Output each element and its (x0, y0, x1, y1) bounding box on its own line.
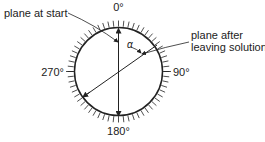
label-270deg: 270° (41, 66, 64, 78)
label-alpha: α (127, 39, 133, 50)
label-plane-at-start: plane at start (4, 7, 68, 19)
label-0deg: 0° (113, 1, 124, 13)
label-180deg: 180° (107, 125, 130, 137)
lower-arrow (83, 92, 90, 97)
plane-after-leader (142, 42, 189, 54)
label-90deg: 90° (173, 66, 190, 78)
polarimeter-diagram: 0° 90° 180° 270° plane at start plane af… (0, 0, 265, 142)
label-plane-after: plane after (191, 29, 243, 41)
label-leaving-solution: leaving solution (191, 41, 265, 53)
